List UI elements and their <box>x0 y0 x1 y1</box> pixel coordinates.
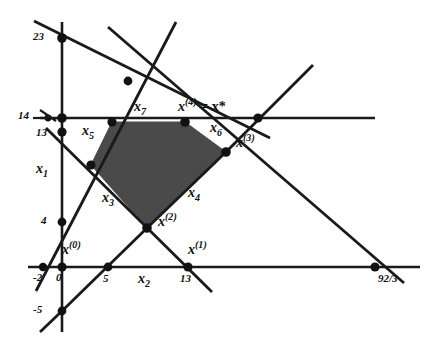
vertex-marker <box>107 117 116 126</box>
vertex-marker <box>86 160 95 169</box>
axis-label-0: 0 <box>56 272 62 283</box>
iterate-label-x1: x(1) <box>188 240 207 257</box>
iterate-label-x3: x(3) <box>236 133 255 150</box>
vertex-marker <box>183 262 192 271</box>
axis-label-5: 5 <box>103 273 109 284</box>
constraint-label-x7: x7 <box>134 100 146 117</box>
vertex-markers <box>39 33 380 315</box>
vertex-marker <box>57 33 67 43</box>
constraint-label-x6: x6 <box>210 121 222 138</box>
axis-label-13-x: 13 <box>180 273 191 284</box>
vertex-marker <box>253 113 262 122</box>
constraint-label-x5: x5 <box>82 124 94 141</box>
vertex-marker <box>57 127 66 136</box>
constraint-line-x7 <box>34 21 270 138</box>
axis-label-92-3: 92/3 <box>378 273 398 284</box>
iterate-label-x0: x(0) <box>62 240 81 257</box>
axis-label-neg5: -5 <box>33 304 42 315</box>
vertex-marker <box>57 113 67 123</box>
vertex-marker <box>58 218 67 227</box>
axis-label-13: 13 <box>36 127 47 138</box>
vertex-marker <box>39 263 47 271</box>
vertex-marker <box>124 77 133 86</box>
axis-label-23: 23 <box>33 31 44 42</box>
axis-label-4: 4 <box>41 215 47 226</box>
vertex-marker <box>104 263 113 272</box>
lp-feasible-region-figure: 23 14 13 4 -5 -2 0 5 13 92/3 x1 x2 x3 x4… <box>0 0 447 348</box>
constraint-label-x3: x3 <box>102 191 114 208</box>
plot-canvas <box>0 0 447 348</box>
constraint-label-x4: x4 <box>188 186 200 203</box>
constraint-label-x2: x2 <box>138 272 150 289</box>
vertex-marker <box>142 223 152 233</box>
vertex-marker <box>58 307 67 316</box>
axis-label-14: 14 <box>18 110 29 121</box>
constraint-label-x1: x1 <box>36 162 48 179</box>
iterate-label-x2: x(2) <box>158 212 177 229</box>
vertex-marker <box>180 117 190 127</box>
vertex-marker <box>370 262 379 271</box>
axis-label-neg2: -2 <box>33 272 42 283</box>
vertex-marker <box>221 147 231 157</box>
constraint-line-x3-lower-ray <box>40 311 62 332</box>
iterate-label-x4-optimal: x(4) = x* <box>178 97 226 114</box>
